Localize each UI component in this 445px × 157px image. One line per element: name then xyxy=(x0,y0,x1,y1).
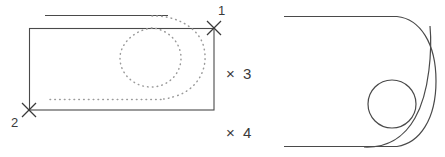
marker-2-label: 2 xyxy=(11,116,18,129)
main-rectangle xyxy=(30,29,215,111)
rounded-nose-profile xyxy=(284,17,436,147)
marker-3-label: × 3 xyxy=(226,66,253,81)
marker-4-label: × 4 xyxy=(226,125,253,140)
drawing-canvas: 1 2 × 3 × 4 xyxy=(0,0,445,157)
inner-fillet-arc xyxy=(364,26,431,147)
right-assembly xyxy=(284,17,436,148)
left-assembly xyxy=(22,16,221,118)
marker-1-label: 1 xyxy=(218,4,225,17)
technical-drawing-svg xyxy=(0,0,445,157)
inner-circle xyxy=(368,80,416,128)
